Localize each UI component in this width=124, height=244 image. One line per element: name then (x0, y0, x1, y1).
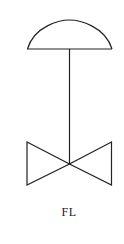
actuator-dome-icon (28, 20, 113, 49)
valve-right-triangle (70, 142, 112, 185)
valve-left-triangle (27, 142, 70, 185)
valve-label: FL (0, 205, 124, 220)
